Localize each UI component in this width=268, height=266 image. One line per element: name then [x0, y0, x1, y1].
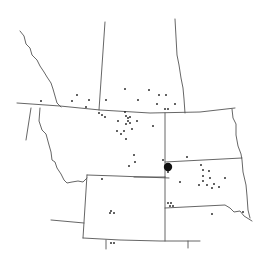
locality-point	[76, 94, 78, 96]
locality-point	[206, 184, 208, 186]
locality-point	[85, 106, 87, 108]
locality-point	[113, 242, 115, 244]
locality-point	[202, 175, 204, 177]
locality-point	[127, 120, 129, 122]
locality-point	[110, 242, 112, 244]
locality-point	[179, 181, 181, 183]
locality-point	[120, 133, 122, 135]
locality-point	[101, 114, 103, 116]
locality-point	[167, 202, 169, 204]
locality-point	[123, 130, 125, 132]
locality-point	[148, 89, 150, 91]
locality-point	[109, 212, 111, 214]
map-background	[0, 0, 268, 266]
locality-point	[164, 108, 166, 110]
locality-point	[242, 211, 244, 213]
locality-point	[124, 88, 126, 90]
locality-point	[131, 128, 133, 130]
locality-point	[134, 161, 136, 163]
locality-point	[202, 180, 204, 182]
locality-point	[104, 116, 106, 118]
locality-point	[211, 187, 213, 189]
locality-point	[202, 169, 204, 171]
locality-point	[137, 99, 139, 101]
locality-point	[165, 94, 167, 96]
locality-point	[116, 130, 118, 132]
large-locality-marker	[164, 163, 172, 171]
locality-point	[127, 117, 129, 119]
locality-point	[105, 99, 107, 101]
locality-point	[156, 103, 158, 105]
locality-point	[40, 100, 42, 102]
locality-point	[208, 170, 210, 172]
locality-point	[136, 120, 138, 122]
locality-point	[125, 115, 127, 117]
locality-point	[88, 99, 90, 101]
highlighted-locality-marker	[164, 163, 172, 171]
locality-point	[158, 94, 160, 96]
locality-point	[113, 212, 115, 214]
locality-point	[71, 100, 73, 102]
locality-point	[125, 123, 127, 125]
locality-point	[211, 213, 213, 215]
locality-point	[224, 177, 226, 179]
locality-point	[101, 178, 103, 180]
outline-map	[0, 0, 268, 266]
locality-point	[213, 183, 215, 185]
locality-point	[174, 103, 176, 105]
locality-point	[133, 154, 135, 156]
locality-point	[98, 112, 100, 114]
locality-point	[152, 125, 154, 127]
locality-point	[125, 138, 127, 140]
locality-point	[162, 159, 164, 161]
locality-point	[209, 177, 211, 179]
locality-point	[128, 165, 130, 167]
locality-point	[198, 184, 200, 186]
locality-point	[124, 111, 126, 113]
locality-point	[129, 122, 131, 124]
locality-point	[167, 108, 169, 110]
locality-point	[172, 205, 174, 207]
locality-point	[167, 171, 169, 173]
locality-point	[170, 202, 172, 204]
locality-point	[200, 164, 202, 166]
locality-point	[110, 210, 112, 212]
locality-point	[169, 205, 171, 207]
locality-point	[218, 186, 220, 188]
locality-point	[117, 120, 119, 122]
locality-point	[129, 116, 131, 118]
locality-point	[186, 156, 188, 158]
